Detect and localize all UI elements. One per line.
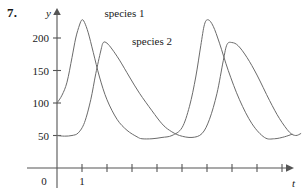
series-curve-2	[57, 42, 301, 138]
x-axis-arrow-icon	[286, 164, 294, 172]
x-axis-label: t	[292, 177, 296, 189]
series-annotation-1: species 1	[105, 7, 145, 19]
series-curves	[57, 20, 301, 139]
origin-label: 0	[41, 175, 47, 187]
series-annotation-2: species 2	[132, 35, 172, 47]
y-tick-label: 150	[33, 65, 50, 77]
series-annotations: species 1species 2	[105, 7, 173, 46]
y-tick-label: 200	[33, 32, 50, 44]
predator-prey-plot: 50100150200 1 y t 0 species 1species 2	[0, 0, 303, 194]
y-tick-label: 100	[33, 97, 50, 109]
series-curve-1	[57, 20, 292, 139]
y-tick-label: 50	[38, 130, 50, 142]
x-tick-label: 1	[79, 175, 85, 187]
figure-container: 7. 50100150200 1 y t 0 species 1species …	[0, 0, 303, 194]
y-axis-arrow-icon	[53, 8, 61, 15]
y-axis-label: y	[45, 7, 51, 19]
